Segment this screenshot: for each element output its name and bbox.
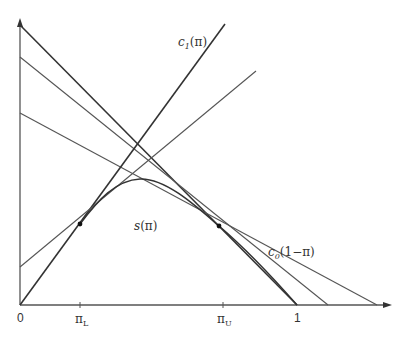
pi-u-label: πU	[217, 312, 232, 328]
s-label: s(π)	[134, 219, 157, 233]
rising-lines	[20, 24, 256, 305]
x-axis-arrow-icon	[383, 302, 392, 308]
s-curve	[80, 179, 297, 305]
diagram-canvas: 0 πL πU 1 c1(π) s(π) c0(1−π)	[0, 0, 414, 341]
c1-label: c1(π)	[178, 35, 207, 51]
pi-l-label: πL	[75, 312, 89, 328]
c1-line	[20, 24, 225, 305]
tangent-point-pi-u	[217, 224, 222, 229]
one-label: 1	[294, 311, 301, 325]
descending-lines	[20, 25, 377, 305]
rising-tangent-line	[20, 71, 256, 267]
origin-label: 0	[17, 311, 24, 325]
c0-label: c0(1−π)	[268, 245, 315, 261]
axes	[17, 18, 392, 308]
descending-line-steep	[20, 25, 297, 305]
tangent-point-pi-l	[78, 222, 83, 227]
